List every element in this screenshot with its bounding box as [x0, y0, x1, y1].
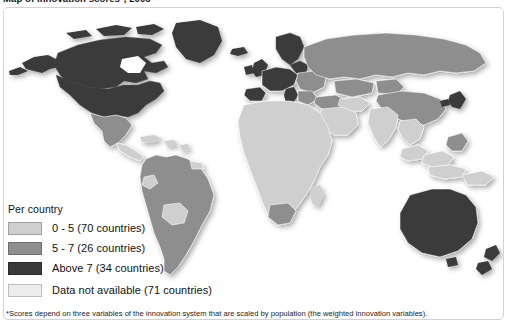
legend-swatch-mid [8, 242, 42, 255]
legend-swatch-low [8, 222, 42, 235]
innovation-scores-map-figure: Map of innovation scores*, 2006 .c0 { fi… [0, 0, 508, 325]
legend-label-nodata: Data not available (71 countries) [52, 284, 212, 296]
legend-swatch-nodata [8, 284, 42, 297]
legend-label-mid: 5 - 7 (26 countries) [52, 242, 145, 254]
legend: Per country 0 - 5 (70 countries) 5 - 7 (… [8, 203, 268, 301]
legend-item-high[interactable]: Above 7 (34 countries) [8, 259, 268, 277]
legend-swatch-high [8, 262, 42, 275]
legend-label-high: Above 7 (34 countries) [52, 262, 164, 274]
legend-item-nodata[interactable]: Data not available (71 countries) [8, 281, 268, 299]
page-title: Map of innovation scores*, 2006 [3, 0, 151, 4]
legend-item-low[interactable]: 0 - 5 (70 countries) [8, 219, 268, 237]
footnote-text: Scores depend on three variables of the … [9, 309, 427, 318]
footnote: *Scores depend on three variables of the… [6, 309, 502, 318]
legend-label-low: 0 - 5 (70 countries) [52, 222, 145, 234]
legend-item-mid[interactable]: 5 - 7 (26 countries) [8, 239, 268, 257]
legend-title: Per country [8, 203, 268, 215]
